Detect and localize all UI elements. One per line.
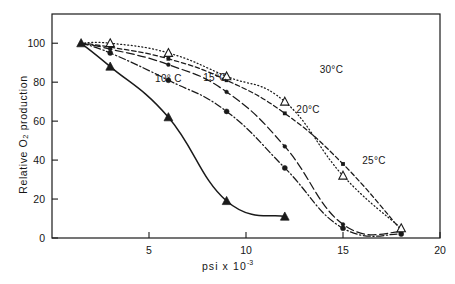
x-tick-label: 15 [337, 244, 349, 256]
data-point-marker [283, 145, 287, 149]
series-line-25c [81, 43, 401, 230]
x-tick-label: 20 [434, 244, 446, 256]
series-line-15c [81, 43, 401, 236]
x-tick-label: 10 [240, 244, 252, 256]
series-line-20c [81, 43, 401, 235]
axis-tick-labels: 0204060801005101520 [27, 37, 446, 256]
y-tick-label: 0 [39, 232, 45, 244]
series-annotations: 10° C15°C20°C25°C30°C [155, 64, 386, 166]
data-point-marker [167, 57, 171, 61]
data-point-marker [164, 49, 172, 57]
data-point-marker [167, 63, 171, 67]
data-point-marker [282, 165, 287, 170]
data-point-marker [283, 111, 287, 115]
x-tick-label: 5 [146, 244, 152, 256]
label-15c: 15°C [203, 72, 227, 83]
data-point-marker [341, 162, 345, 166]
y-tick-label: 60 [33, 115, 45, 127]
data-series [81, 42, 401, 236]
y-tick-label: 20 [33, 193, 45, 205]
data-point-marker [108, 50, 113, 55]
data-point-marker [341, 222, 345, 226]
plot-area: 0204060801005101520 10° C15°C20°C25°C30°… [0, 0, 455, 284]
figure-container: Relative O2 production psi x 10-3 020406… [0, 0, 455, 284]
data-point-marker [341, 226, 346, 231]
series-line-30c [81, 42, 401, 228]
y-tick-label: 80 [33, 76, 45, 88]
label-25c: 25°C [362, 155, 386, 166]
label-30c: 30°C [320, 64, 344, 75]
data-point-marker [281, 97, 289, 105]
data-markers [77, 39, 406, 237]
y-tick-label: 40 [33, 154, 45, 166]
data-point-marker [225, 90, 229, 94]
label-20c: 20°C [296, 104, 320, 115]
x-axis-title: psi x 10-3 [0, 259, 455, 272]
axis-ticks [52, 43, 440, 238]
x-axis-title-main: psi x 10 [202, 260, 247, 272]
data-point-marker [224, 109, 229, 114]
x-axis-title-exponent: -3 [247, 259, 253, 266]
label-10c: 10° C [155, 73, 182, 84]
y-tick-label: 100 [27, 37, 45, 49]
